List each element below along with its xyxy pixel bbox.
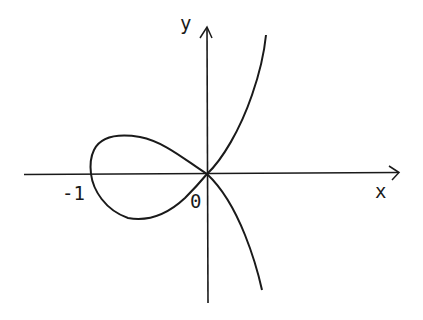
curve-branch-upper (207, 35, 266, 174)
x-axis-label: x (375, 180, 386, 202)
y-axis (207, 28, 208, 303)
curve-branch-lower (207, 174, 262, 290)
tick-label-minus-one: -1 (62, 182, 85, 204)
y-axis-label: y (180, 12, 191, 34)
y-axis-arrowhead (200, 27, 212, 38)
origin-label: 0 (190, 190, 201, 212)
curve-loop-upper (90, 136, 207, 174)
x-axis (24, 173, 398, 175)
curve-diagram: y x -1 0 (0, 0, 423, 320)
